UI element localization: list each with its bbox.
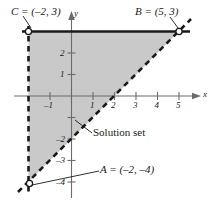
x-tick-label-1: 1 <box>90 101 95 110</box>
x-axis-label: x <box>203 90 207 99</box>
leader-line-point-c <box>23 16 31 28</box>
x-tick-label-5: 5 <box>176 101 181 110</box>
y-tick-label--4: –4 <box>56 178 65 187</box>
inequality-graph-figure <box>0 0 217 217</box>
x-tick-label-4: 4 <box>155 101 160 110</box>
x-tick-label-2: 2 <box>111 101 116 110</box>
y-tick-label--3: –3 <box>56 156 65 165</box>
point-marker-a <box>26 180 32 186</box>
leader-line-point-b <box>170 17 178 28</box>
point-label-b: B = (5, 3) <box>135 6 178 17</box>
y-axis-label: y <box>74 9 78 18</box>
x-tick-label--1: –1 <box>44 101 53 110</box>
x-axis-arrow-icon <box>192 93 201 100</box>
y-tick-label-1: 1 <box>60 70 65 79</box>
point-marker-b <box>176 28 182 34</box>
point-marker-c <box>25 28 31 34</box>
point-label-a: A = (–2, –4) <box>100 164 154 175</box>
y-tick-label--2: –2 <box>56 135 65 144</box>
solution-set-annotation: Solution set <box>93 127 145 138</box>
leader-line-point-a <box>32 171 99 185</box>
y-tick-label-2: 2 <box>60 49 65 58</box>
point-label-c: C = (–2, 3) <box>11 6 61 17</box>
x-tick-label-3: 3 <box>133 101 138 110</box>
